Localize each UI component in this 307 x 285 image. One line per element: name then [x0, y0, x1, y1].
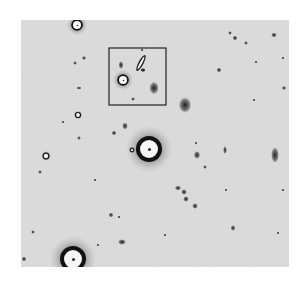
faint-object — [192, 203, 198, 209]
faint-object — [224, 188, 227, 191]
faint-object — [96, 243, 99, 246]
faint-object — [22, 257, 27, 262]
faint-object — [252, 98, 255, 101]
faint-object — [122, 122, 128, 129]
faint-object — [149, 82, 159, 95]
faint-object — [271, 33, 277, 38]
faint-object — [38, 170, 42, 174]
faint-object — [109, 213, 114, 218]
faint-object — [181, 189, 187, 195]
faint-object — [82, 56, 86, 60]
faint-object — [233, 36, 238, 41]
faint-object — [276, 231, 279, 234]
faint-object — [119, 61, 124, 69]
faint-object — [93, 178, 96, 181]
faint-object — [281, 188, 284, 191]
faint-object — [131, 97, 135, 101]
faint-object — [231, 225, 236, 231]
faint-object — [281, 56, 284, 59]
faint-object — [217, 68, 222, 73]
faint-object — [183, 196, 189, 202]
ring-object — [43, 153, 49, 159]
faint-object — [175, 186, 181, 191]
faint-object — [194, 141, 197, 144]
star-in-box — [113, 70, 134, 91]
star-bottom-left — [50, 236, 97, 283]
star-field-image — [0, 0, 307, 285]
faint-object — [254, 60, 257, 63]
faint-object — [140, 48, 143, 51]
star-center — [126, 126, 173, 173]
faint-object — [77, 136, 81, 140]
faint-object — [111, 131, 116, 135]
faint-object — [73, 61, 77, 65]
faint-object — [194, 151, 200, 159]
faint-object — [271, 147, 279, 163]
star-field-canvas — [0, 0, 307, 285]
faint-object — [179, 97, 192, 113]
faint-object — [77, 86, 82, 89]
faint-object — [223, 146, 227, 154]
ring-object — [76, 113, 81, 118]
faint-object — [31, 230, 35, 234]
faint-object — [203, 165, 207, 169]
faint-object — [117, 215, 120, 218]
faint-object — [61, 120, 64, 123]
faint-object — [244, 41, 248, 45]
faint-object — [282, 86, 286, 90]
star-top-left — [67, 15, 88, 36]
faint-object — [118, 239, 126, 245]
faint-object — [163, 233, 166, 236]
faint-object — [228, 31, 232, 35]
